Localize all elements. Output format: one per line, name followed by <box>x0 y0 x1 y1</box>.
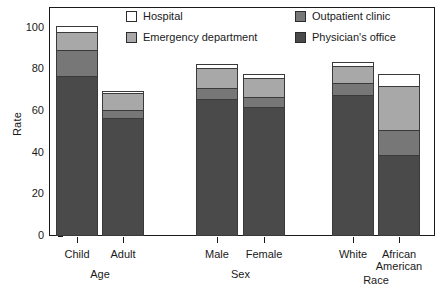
y-tick-mark <box>58 236 63 237</box>
x-tick-label-line: Female <box>229 248 299 260</box>
stacked-bar-chart: Rate 100806040200 ChildAdultMaleFemaleWh… <box>0 0 443 292</box>
legend-swatch-icon <box>295 32 306 43</box>
bar-segment-physician-s-office <box>196 99 238 236</box>
bar-segment-physician-s-office <box>56 76 98 236</box>
bar-female[interactable] <box>243 74 285 236</box>
bar-segment-emergency-department <box>102 93 144 110</box>
bar-segment-emergency-department <box>378 86 420 130</box>
bar-segment-physician-s-office <box>378 155 420 236</box>
x-tick-label: Female <box>229 248 299 260</box>
legend-label: Physician's office <box>312 32 396 43</box>
bar-adult[interactable] <box>102 91 144 236</box>
bar-segment-outpatient-clinic <box>102 110 144 118</box>
x-tick-mark <box>264 237 265 243</box>
x-tick-label-line: Adult <box>88 248 158 260</box>
x-tick-mark <box>353 237 354 243</box>
y-tick-label: 80 <box>18 63 44 74</box>
bar-segment-emergency-department <box>196 68 238 88</box>
x-tick-label: AfricanAmerican <box>364 248 434 272</box>
x-tick-mark <box>217 237 218 243</box>
y-tick-label: 100 <box>18 22 44 33</box>
chart-legend: HospitalEmergency departmentOutpatient c… <box>126 11 426 49</box>
legend-item-physician-s-office[interactable]: Physician's office <box>295 32 396 43</box>
bar-segment-outpatient-clinic <box>196 88 238 98</box>
bar-male[interactable] <box>196 64 238 236</box>
bar-child[interactable] <box>56 26 98 236</box>
y-tick-label: 60 <box>18 105 44 116</box>
bar-segment-outpatient-clinic <box>378 130 420 155</box>
x-group-label-age: Age <box>45 268 155 280</box>
x-tick-label-line: African <box>364 248 434 260</box>
legend-item-emergency-department[interactable]: Emergency department <box>126 32 257 43</box>
bar-segment-physician-s-office <box>243 107 285 236</box>
bar-segment-emergency-department <box>56 32 98 50</box>
x-group-label-sex: Sex <box>186 268 296 280</box>
legend-label: Emergency department <box>143 32 257 43</box>
legend-item-hospital[interactable]: Hospital <box>126 11 183 22</box>
bar-segment-outpatient-clinic <box>332 83 374 95</box>
y-tick-label: 20 <box>18 188 44 199</box>
x-tick-mark <box>123 237 124 243</box>
bar-african-american[interactable] <box>378 74 420 236</box>
legend-swatch-icon <box>126 32 137 43</box>
legend-swatch-icon <box>126 11 137 22</box>
x-group-label-race: Race <box>321 274 431 286</box>
bar-white[interactable] <box>332 62 374 236</box>
legend-label: Outpatient clinic <box>312 11 390 22</box>
y-axis-ticks: 100806040200 <box>14 0 44 292</box>
x-tick-mark <box>399 237 400 243</box>
bar-segment-emergency-department <box>332 66 374 83</box>
legend-item-outpatient-clinic[interactable]: Outpatient clinic <box>295 11 390 22</box>
x-tick-label: Adult <box>88 248 158 260</box>
bar-segment-outpatient-clinic <box>243 97 285 107</box>
x-tick-mark <box>77 237 78 243</box>
x-tick-label-line: American <box>364 260 434 272</box>
y-tick-label: 0 <box>18 230 44 241</box>
y-tick-label: 40 <box>18 147 44 158</box>
legend-swatch-icon <box>295 11 306 22</box>
bar-segment-physician-s-office <box>102 118 144 236</box>
legend-label: Hospital <box>143 11 183 22</box>
bar-segment-hospital <box>378 74 420 86</box>
bar-segment-outpatient-clinic <box>56 50 98 76</box>
bar-segment-physician-s-office <box>332 95 374 236</box>
bar-segment-emergency-department <box>243 78 285 97</box>
